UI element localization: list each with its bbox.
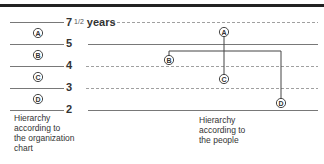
svg-text:C: C: [35, 74, 40, 81]
svg-text:B: B: [35, 52, 40, 59]
org-node-b: B: [33, 50, 42, 59]
svg-text:C: C: [221, 76, 226, 83]
svg-text:D: D: [35, 96, 40, 103]
caption-people: Hierarchy according to the people: [199, 115, 245, 145]
org-node-a: A: [33, 28, 42, 37]
org-node-d: D: [33, 94, 42, 103]
people-node-b: B: [164, 55, 173, 64]
people-node-a: A: [219, 27, 228, 36]
svg-text:A: A: [35, 30, 40, 37]
caption-org-chart: Hierarchy according to the organization …: [14, 113, 75, 153]
svg-text:B: B: [166, 57, 171, 64]
level-label-lvl-3: 3: [66, 82, 72, 93]
people-node-d: D: [276, 98, 285, 107]
org-node-c: C: [33, 72, 42, 81]
level-label-lvl-4: 4: [66, 60, 72, 71]
level-label-lvl-7half: 7 1/2 years: [66, 16, 116, 28]
svg-text:A: A: [221, 29, 226, 36]
people-node-c: C: [219, 74, 228, 83]
hierarchy-diagram: ABCDABCD 7 1/2 years5432 Hierarchy accor…: [0, 0, 324, 164]
level-label-lvl-5: 5: [66, 38, 72, 49]
svg-text:D: D: [278, 100, 283, 107]
